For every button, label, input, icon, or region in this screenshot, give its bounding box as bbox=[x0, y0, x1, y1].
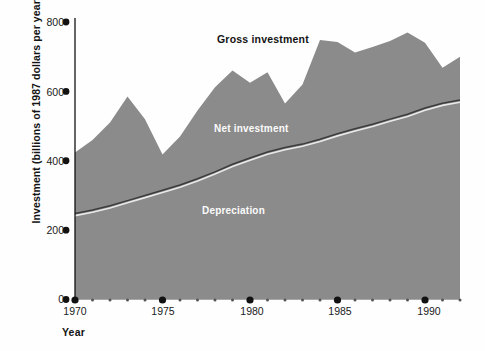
x-tick-label-1980: 1980 bbox=[232, 305, 272, 317]
x-tick-dot-minor bbox=[126, 299, 129, 302]
x-tick-dot-minor bbox=[179, 299, 182, 302]
x-axis-title: Year bbox=[62, 326, 85, 338]
y-tick-label-600: 600 bbox=[30, 86, 64, 98]
depreciation-label: Depreciation bbox=[202, 205, 265, 216]
y-axis-title-text: Investment (billions of 1987 dollars per… bbox=[30, 0, 42, 223]
net-investment-label: Net investment bbox=[214, 123, 289, 134]
x-tick-dot-minor bbox=[301, 299, 304, 302]
x-tick-dot-major bbox=[421, 296, 428, 303]
x-tick-label-1975: 1975 bbox=[143, 305, 183, 317]
chart-canvas bbox=[0, 0, 485, 351]
gross-investment-label: Gross investment bbox=[217, 33, 309, 45]
y-tick-label-0: 0 bbox=[30, 293, 64, 305]
x-tick-dot-major bbox=[246, 296, 253, 303]
x-tick-dot-minor bbox=[441, 299, 444, 302]
x-tick-dot-minor bbox=[91, 299, 94, 302]
y-tick-label-200: 200 bbox=[30, 224, 64, 236]
x-tick-label-1970: 1970 bbox=[55, 305, 95, 317]
y-tick-label-400: 400 bbox=[30, 155, 64, 167]
x-tick-dot-major bbox=[334, 296, 341, 303]
y-axis-title: Investment (billions of 1987 dollars per… bbox=[26, 0, 46, 240]
investment-area-chart: Investment (billions of 1987 dollars per… bbox=[0, 0, 485, 351]
x-tick-dot-major bbox=[159, 296, 166, 303]
x-tick-label-1985: 1985 bbox=[320, 305, 360, 317]
x-tick-dot-minor bbox=[319, 299, 322, 302]
x-tick-dot-major bbox=[71, 296, 78, 303]
x-tick-dot-minor bbox=[459, 299, 462, 302]
x-tick-dot-minor bbox=[266, 299, 269, 302]
x-tick-dot-minor bbox=[231, 299, 234, 302]
x-tick-label-1990: 1990 bbox=[409, 305, 449, 317]
x-tick-dot-minor bbox=[354, 299, 357, 302]
y-tick-label-800: 800 bbox=[30, 16, 64, 28]
x-tick-dot-minor bbox=[371, 299, 374, 302]
x-tick-dot-minor bbox=[406, 299, 409, 302]
x-tick-dot-minor bbox=[214, 299, 217, 302]
x-tick-dot-minor bbox=[144, 299, 147, 302]
x-tick-dot-minor bbox=[196, 299, 199, 302]
x-tick-dot-minor bbox=[109, 299, 112, 302]
x-tick-dot-minor bbox=[284, 299, 287, 302]
x-tick-dot-minor bbox=[389, 299, 392, 302]
